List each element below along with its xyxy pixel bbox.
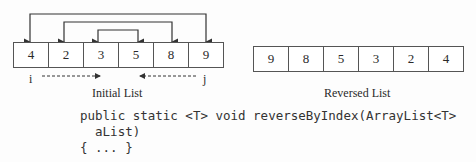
list-cell: 2 xyxy=(49,43,84,67)
list-cell: 3 xyxy=(359,47,394,71)
initial-list: 4 2 3 5 8 9 xyxy=(13,42,224,68)
list-cell: 9 xyxy=(254,47,289,71)
index-i-label: i xyxy=(29,72,32,87)
reversed-list: 9 8 5 3 2 4 xyxy=(253,46,464,72)
reversed-list-caption: Reversed List xyxy=(324,86,390,101)
code-line-3: { ... } xyxy=(80,140,133,155)
list-cell: 9 xyxy=(189,43,223,67)
list-cell: 8 xyxy=(289,47,324,71)
list-cell: 4 xyxy=(14,43,49,67)
list-cell: 3 xyxy=(84,43,119,67)
list-cell: 4 xyxy=(429,47,463,71)
code-line-1: public static <T> void reverseByIndex(Ar… xyxy=(80,108,456,123)
list-cell: 5 xyxy=(324,47,359,71)
list-cell: 2 xyxy=(394,47,429,71)
list-cell: 8 xyxy=(154,43,189,67)
index-j-label: j xyxy=(203,72,206,87)
list-cell: 5 xyxy=(119,43,154,67)
initial-list-caption: Initial List xyxy=(92,86,142,101)
code-line-2: aList) xyxy=(80,124,140,139)
